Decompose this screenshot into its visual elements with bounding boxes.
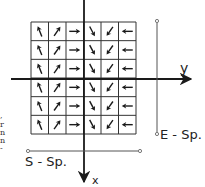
arrow-down-right-icon	[87, 119, 97, 131]
arrow-left-icon	[122, 85, 133, 90]
arrow-up-right-icon	[52, 44, 63, 56]
arrow-up-right-icon	[52, 119, 63, 131]
arrow-down-left-icon	[104, 81, 115, 93]
diagram-canvas: y x E - Sp. S - Sp. , r n n -	[0, 0, 205, 187]
arrow-up-right-icon	[52, 25, 63, 37]
s-scan-label: S - Sp.	[25, 155, 67, 168]
arrow-right-icon	[69, 103, 80, 108]
arrow-up-right-icon	[52, 63, 63, 75]
arrow-left-icon	[122, 122, 133, 127]
e-scan-label: E - Sp.	[160, 128, 202, 141]
arrow-down-right-icon	[87, 63, 97, 75]
arrow-up-left-icon	[35, 63, 44, 75]
margin-text-fragment: ,	[0, 112, 3, 120]
arrow-left-icon	[122, 66, 133, 71]
arrow-right-icon	[69, 66, 80, 71]
x-axis-label: x	[92, 174, 99, 187]
arrow-up-left-icon	[35, 119, 44, 131]
arrow-down-left-icon	[104, 119, 115, 131]
s-scan-start-marker	[26, 149, 29, 152]
arrow-left-icon	[122, 47, 133, 52]
arrow-up-right-icon	[52, 100, 63, 112]
arrow-down-left-icon	[104, 44, 115, 56]
arrow-up-left-icon	[35, 100, 44, 112]
arrow-right-icon	[69, 47, 80, 52]
s-scan-end-marker	[138, 149, 141, 152]
arrow-up-left-icon	[35, 44, 44, 56]
arrow-down-left-icon	[104, 25, 115, 37]
y-axis-label: y	[180, 62, 188, 75]
arrow-up-left-icon	[35, 25, 44, 37]
margin-text-fragment: -	[0, 145, 3, 153]
e-scan-start-marker	[155, 19, 158, 22]
arrow-up-left-icon	[35, 81, 44, 93]
arrow-up-right-icon	[52, 81, 63, 93]
e-scan-line	[155, 19, 158, 135]
arrow-down-left-icon	[104, 100, 115, 112]
arrow-down-right-icon	[87, 25, 97, 37]
e-scan-end-marker	[155, 132, 158, 135]
arrow-right-icon	[69, 85, 80, 90]
arrow-down-right-icon	[87, 81, 97, 93]
arrow-left-icon	[122, 29, 133, 34]
arrow-right-icon	[69, 29, 80, 34]
arrow-down-left-icon	[104, 63, 115, 75]
arrow-right-icon	[69, 122, 80, 127]
arrow-down-right-icon	[87, 44, 97, 56]
arrow-down-right-icon	[87, 100, 97, 112]
arrow-left-icon	[122, 103, 133, 108]
